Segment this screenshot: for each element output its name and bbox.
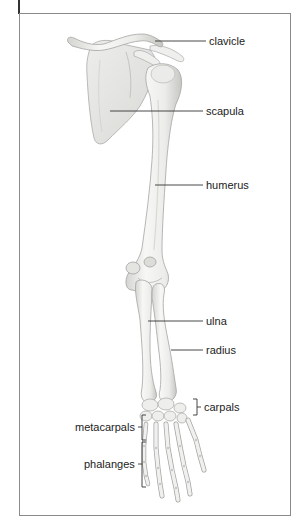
label-humerus: humerus [206, 179, 249, 191]
label-phalanges: phalanges [84, 458, 135, 470]
label-carpals: carpals [204, 401, 239, 413]
label-radius: radius [206, 344, 236, 356]
hand-bones [143, 420, 204, 500]
bracket-carpals [193, 399, 197, 415]
arm-skeleton-illustration [0, 0, 308, 527]
label-clavicle: clavicle [209, 35, 245, 47]
radius-bone [152, 283, 176, 402]
label-metacarpals: metacarpals [75, 421, 135, 433]
label-scapula: scapula [206, 105, 244, 117]
carpal-bones [140, 398, 187, 423]
label-ulna: ulna [206, 315, 227, 327]
